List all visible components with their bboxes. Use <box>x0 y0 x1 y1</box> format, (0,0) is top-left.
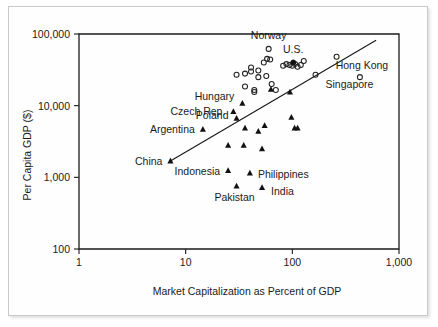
point-label: Indonesia <box>175 165 221 177</box>
data-point-emerging <box>234 115 240 121</box>
x-tick-label: 1,000 <box>386 256 412 268</box>
point-label: U.S. <box>283 43 303 55</box>
point-label: Hong Kong <box>336 59 389 71</box>
y-tick-label: 100 <box>52 243 70 255</box>
chart-canvas: 1101001,0001001,00010,000100,000 NorwayU… <box>9 7 427 315</box>
data-point-developed <box>273 88 278 93</box>
data-point-developed <box>243 71 248 76</box>
point-label: Pakistan <box>214 191 254 203</box>
data-point-developed <box>256 68 261 73</box>
data-point-emerging <box>225 142 231 148</box>
point-label: Norway <box>251 29 287 41</box>
y-tick-label: 10,000 <box>38 100 70 112</box>
point-label: India <box>271 185 294 197</box>
x-tick-label: 1 <box>76 256 82 268</box>
data-point-emerging <box>234 183 240 189</box>
data-point-developed <box>264 73 269 78</box>
data-point-developed <box>268 57 273 62</box>
data-point-emerging <box>167 158 173 164</box>
data-point-developed <box>291 60 296 65</box>
y-tick-label: 1,000 <box>44 171 70 183</box>
data-point-developed <box>269 82 274 87</box>
scatter-chart: 1101001,0001001,00010,000100,000 NorwayU… <box>9 7 429 317</box>
data-point-emerging <box>247 170 253 176</box>
y-tick-label: 100,000 <box>32 28 70 40</box>
data-point-emerging <box>239 100 245 106</box>
figure-panel: 1101001,0001001,00010,000100,000 NorwayU… <box>8 6 428 316</box>
data-point-emerging <box>242 125 248 131</box>
point-label: Singapore <box>326 78 374 90</box>
point-label: Philippines <box>258 168 309 180</box>
data-point-emerging <box>225 167 231 173</box>
data-point-emerging <box>241 142 247 148</box>
data-point-emerging <box>262 122 268 128</box>
point-label: China <box>135 155 163 167</box>
data-point-developed <box>234 72 239 77</box>
data-point-emerging <box>259 146 265 152</box>
x-axis-title: Market Capitalization as Percent of GDP <box>153 285 342 297</box>
data-point-emerging <box>255 128 261 134</box>
point-label: Hungary <box>195 90 235 102</box>
x-tick-label: 100 <box>284 256 302 268</box>
data-point-emerging <box>288 114 294 120</box>
y-axis-title: Per Capita GDP ($) <box>21 110 33 201</box>
data-point-developed <box>301 59 306 64</box>
data-point-emerging <box>200 126 206 132</box>
data-point-emerging <box>230 108 236 114</box>
x-tick-label: 10 <box>180 256 192 268</box>
point-label: Poland <box>196 109 229 121</box>
data-point-developed <box>243 84 248 89</box>
data-point-emerging <box>259 184 265 190</box>
data-point-developed <box>256 75 261 80</box>
point-label: Argentina <box>150 123 195 135</box>
data-point-developed <box>266 46 271 51</box>
